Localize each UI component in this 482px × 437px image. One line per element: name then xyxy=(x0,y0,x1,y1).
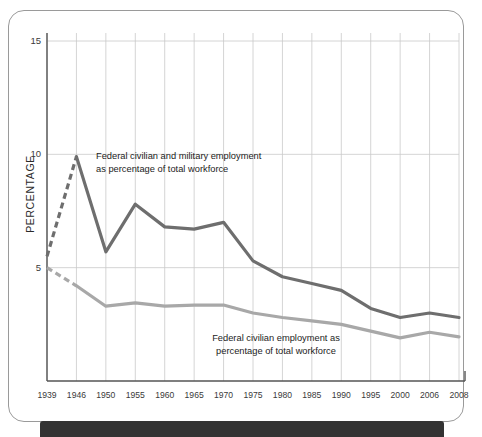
series-1-dashed-segment xyxy=(47,268,76,286)
y-tick-label: 10 xyxy=(15,148,41,159)
annotation-total-employment: Federal civilian and military employment… xyxy=(96,150,326,175)
x-tick-label: 2008 xyxy=(439,390,479,400)
y-tick-label: 5 xyxy=(15,262,41,273)
gridlines xyxy=(47,33,459,381)
series-0-line xyxy=(76,157,459,318)
series-1-line xyxy=(76,286,459,338)
line-chart-svg xyxy=(0,0,482,437)
annotation-civilian-employment: Federal civilian employment as percentag… xyxy=(186,332,366,357)
series-0-dashed-segment xyxy=(47,157,76,257)
axis-lines xyxy=(47,33,465,381)
y-tick-label: 15 xyxy=(15,35,41,46)
chart-screenshot: PERCENTAGE 15105 19391946195019551960196… xyxy=(0,0,482,437)
